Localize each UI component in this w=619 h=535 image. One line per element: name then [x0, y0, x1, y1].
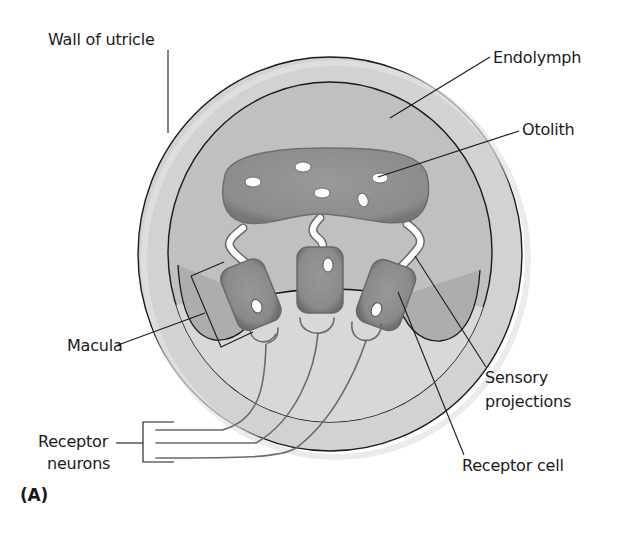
panel-label: (A) — [20, 485, 48, 505]
label-receptor-neurons-line1: Receptor — [38, 432, 108, 452]
label-wall-of-utricle: Wall of utricle — [48, 30, 155, 50]
label-macula: Macula — [67, 336, 123, 356]
label-endolymph: Endolymph — [493, 48, 581, 68]
label-sensory-projections-line2: projections — [485, 392, 571, 412]
label-receptor-neurons-line2: neurons — [47, 454, 110, 474]
label-sensory-projections-line1: Sensory — [485, 368, 548, 388]
label-receptor-cell: Receptor cell — [462, 456, 564, 476]
label-otolith: Otolith — [522, 120, 575, 140]
receptor-cell-middle — [297, 247, 343, 313]
